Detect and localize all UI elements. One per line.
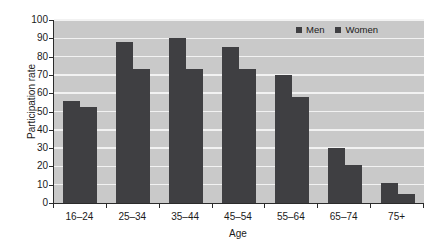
x-axis-tick: [106, 204, 107, 208]
y-axis-tick-label: 90: [4, 33, 48, 43]
y-axis-tick: [49, 112, 53, 113]
y-axis-line: [53, 20, 54, 204]
y-axis-tick: [49, 75, 53, 76]
legend-label-women: Women: [345, 24, 378, 35]
bar-men-5: [328, 148, 345, 203]
legend: Men Women: [296, 24, 378, 35]
bar-women-0: [80, 107, 97, 203]
x-axis-line: [53, 203, 424, 204]
y-axis-tick-label: 30: [4, 143, 48, 153]
bar-women-2: [186, 69, 203, 203]
y-axis-tick-label: 80: [4, 52, 48, 62]
legend-swatch-icon: [335, 27, 341, 33]
y-axis-tick-label: 50: [4, 107, 48, 117]
y-axis-tick-label: 40: [4, 125, 48, 135]
plot-area: [53, 20, 424, 203]
gridline: [54, 19, 424, 21]
bar-men-3: [222, 47, 239, 203]
bar-men-0: [63, 101, 80, 203]
y-axis-tick: [49, 93, 53, 94]
y-axis-tick-labels: 0102030405060708090100: [0, 0, 48, 248]
x-axis-tick: [53, 204, 54, 208]
legend-entry-women: Women: [335, 24, 378, 35]
x-axis-title: Age: [53, 228, 423, 239]
y-axis-tick: [49, 57, 53, 58]
y-axis-tick: [49, 148, 53, 149]
bar-chart-figure: Participation rate 010203040506070809010…: [0, 0, 433, 248]
bar-women-4: [292, 97, 309, 203]
x-axis-tick: [317, 204, 318, 208]
y-axis-tick-label: 70: [4, 70, 48, 80]
y-axis-tick: [49, 20, 53, 21]
y-axis-tick-label: 60: [4, 88, 48, 98]
bar-men-1: [116, 42, 133, 203]
legend-label-men: Men: [306, 24, 324, 35]
bar-men-4: [275, 75, 292, 203]
y-axis-tick-label: 20: [4, 161, 48, 171]
x-axis-tick: [423, 204, 424, 208]
gridline: [54, 38, 424, 40]
legend-swatch-icon: [296, 27, 302, 33]
x-axis-tick: [264, 204, 265, 208]
y-axis-tick: [49, 38, 53, 39]
bar-women-1: [133, 69, 150, 203]
bar-men-6: [381, 183, 398, 203]
y-axis-tick-label: 0: [4, 198, 48, 208]
x-axis-tick: [212, 204, 213, 208]
legend-entry-men: Men: [296, 24, 324, 35]
bar-men-2: [169, 38, 186, 203]
x-axis-tick: [159, 204, 160, 208]
y-axis-tick: [49, 166, 53, 167]
x-axis-tick: [370, 204, 371, 208]
bar-women-5: [345, 165, 362, 203]
x-axis-tick-label: 75+: [362, 211, 432, 222]
y-axis-tick-label: 100: [4, 15, 48, 25]
gridline: [54, 56, 424, 58]
bar-women-3: [239, 69, 256, 203]
y-axis-tick: [49, 185, 53, 186]
y-axis-tick: [49, 130, 53, 131]
y-axis-tick-label: 10: [4, 180, 48, 190]
bar-women-6: [398, 194, 415, 203]
